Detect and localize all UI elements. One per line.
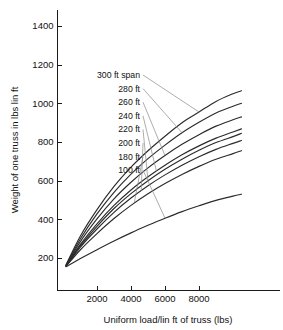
series-label: 260 ft: [118, 97, 140, 107]
series-label: 280 ft: [118, 84, 140, 94]
y-tick-label: 400: [38, 214, 54, 225]
y-tick-label: 200: [38, 252, 54, 263]
series-label: 300 ft span: [97, 70, 140, 80]
series-label: 240 ft: [118, 111, 140, 121]
series-label: 200 ft: [118, 138, 140, 148]
x-tick-label: 8000: [188, 293, 209, 304]
y-axis-title: Weight of one truss in lbs lin ft: [9, 86, 20, 213]
y-tick-label: 800: [38, 136, 54, 147]
x-tick-label: 6000: [154, 293, 175, 304]
truss-weight-line-chart: 200400600800100012001400 200040006000800…: [0, 0, 283, 330]
series-label: 180 ft: [118, 152, 140, 162]
y-tick-label: 1200: [32, 59, 53, 70]
x-tick-label: 2000: [86, 293, 107, 304]
y-tick-label: 1400: [32, 20, 53, 31]
x-axis-title: Uniform load/lin ft of truss (lbs): [104, 314, 233, 325]
chart-container: 200400600800100012001400 200040006000800…: [0, 0, 283, 330]
x-tick-label: 4000: [120, 293, 141, 304]
series-label: 100 ft: [118, 165, 140, 175]
y-tick-label: 600: [38, 175, 54, 186]
series-label: 220 ft: [118, 124, 140, 134]
y-tick-label: 1000: [32, 98, 53, 109]
